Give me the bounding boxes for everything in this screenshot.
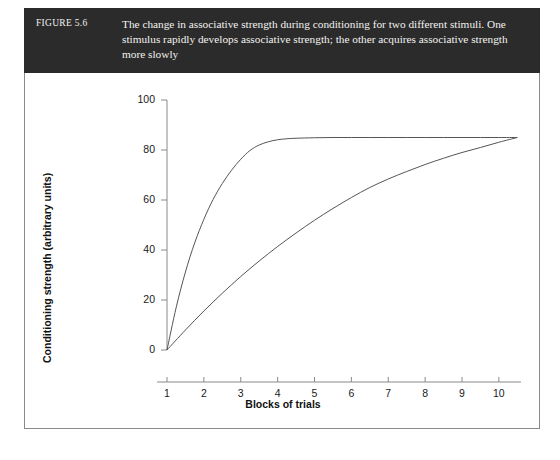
y-axis-title: Conditioning strength (arbitrary units) <box>41 173 53 363</box>
figure-caption-text: The change in associative strength durin… <box>122 17 528 63</box>
axes-group <box>157 100 521 382</box>
y-tick-label: 60 <box>129 193 155 205</box>
x-tick-label: 10 <box>489 387 509 399</box>
y-tick-label: 0 <box>129 343 155 355</box>
caption-inner: FIGURE 5.6 The change in associative str… <box>36 17 528 63</box>
x-tick-label: 5 <box>305 387 325 399</box>
curves-group <box>167 137 517 350</box>
y-tick-label: 80 <box>129 143 155 155</box>
y-tick-label: 100 <box>129 93 155 105</box>
figure-caption-bar: FIGURE 5.6 The change in associative str… <box>24 8 540 73</box>
x-tick-label: 4 <box>268 387 288 399</box>
learning-curve-chart <box>25 73 541 429</box>
x-tick-label: 1 <box>157 387 177 399</box>
curve-series-0 <box>167 137 517 350</box>
plot-frame: Conditioning strength (arbitrary units) … <box>24 73 540 429</box>
x-tick-label: 8 <box>415 387 435 399</box>
x-tick-label: 6 <box>341 387 361 399</box>
x-tick-label: 9 <box>452 387 472 399</box>
x-axis-title: Blocks of trials <box>25 398 541 410</box>
chart-area: Conditioning strength (arbitrary units) … <box>25 73 541 429</box>
x-tick-label: 3 <box>231 387 251 399</box>
y-tick-label: 40 <box>129 243 155 255</box>
x-tick-label: 2 <box>194 387 214 399</box>
figure-number-label: FIGURE 5.6 <box>36 17 122 28</box>
y-tick-label: 20 <box>129 293 155 305</box>
figure-container: FIGURE 5.6 The change in associative str… <box>0 0 560 460</box>
x-tick-label: 7 <box>378 387 398 399</box>
curve-series-1 <box>167 138 517 351</box>
